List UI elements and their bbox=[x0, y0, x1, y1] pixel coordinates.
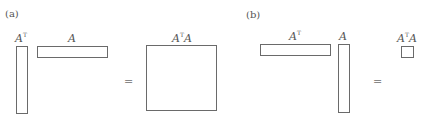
equals-sign-b: = bbox=[373, 75, 382, 88]
matrix-a-label: A bbox=[67, 32, 76, 45]
matrix-ata-small bbox=[402, 47, 414, 58]
matrix-a-transpose-label: AT bbox=[14, 31, 27, 45]
equals-sign-a: = bbox=[124, 75, 133, 88]
matrix-a-transpose-wide bbox=[261, 45, 331, 56]
panel-a-label: (a) bbox=[5, 8, 19, 19]
matrix-a-label-b: A bbox=[338, 30, 347, 43]
panel-a: (a) AT A = ATA bbox=[5, 8, 217, 114]
matrix-ata-label-b: ATA bbox=[396, 31, 417, 45]
matrix-a-tall bbox=[339, 45, 350, 113]
matrix-a-transpose-label-b: AT bbox=[288, 29, 301, 43]
matrix-product-diagram: (a) AT A = ATA (b) AT A = ATA bbox=[0, 0, 423, 119]
matrix-ata-label-a: ATA bbox=[171, 31, 192, 45]
panel-b-label: (b) bbox=[246, 9, 260, 20]
matrix-a-wide bbox=[38, 47, 108, 58]
matrix-ata-large bbox=[147, 46, 217, 111]
matrix-a-transpose-tall bbox=[17, 47, 28, 114]
panel-b: (b) AT A = ATA bbox=[246, 9, 417, 113]
